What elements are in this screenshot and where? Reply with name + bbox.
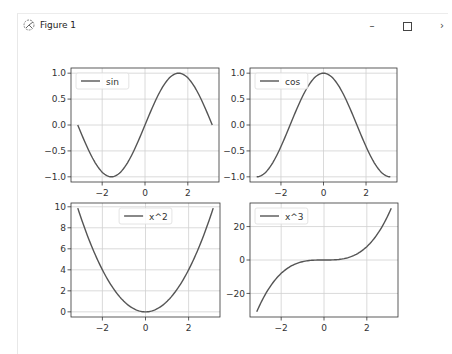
legend: cos [255, 73, 308, 89]
x-tick-label: 2 [186, 323, 192, 333]
y-tick-label: 10 [55, 202, 67, 212]
y-tick-label: −20 [226, 289, 245, 299]
y-tick-label: 4 [60, 265, 66, 275]
y-tick-label: 0.5 [231, 94, 245, 104]
y-tick-label: −1.0 [44, 172, 66, 182]
y-tick-label: 0.5 [52, 94, 66, 104]
y-tick-label: 0 [60, 307, 66, 317]
y-tick-label: 1.0 [231, 68, 246, 78]
x-tick-label: 0 [143, 323, 149, 333]
y-tick-label: −0.5 [223, 146, 245, 156]
legend: x^3 [255, 208, 308, 224]
legend: sin [76, 73, 129, 89]
x-tick-label: −2 [275, 323, 288, 333]
subplot-x-pow-3: −202−20020x^3 [226, 203, 398, 333]
y-tick-label: 8 [60, 223, 66, 233]
y-tick-label: 6 [60, 244, 66, 254]
x-tick-label: 2 [185, 188, 191, 198]
legend-label: x^3 [285, 212, 304, 222]
legend-label: x^2 [149, 212, 168, 222]
x-tick-label: −2 [274, 188, 287, 198]
y-tick-label: 20 [234, 222, 246, 232]
y-tick-label: 2 [60, 286, 66, 296]
legend-label: sin [106, 77, 119, 87]
y-tick-label: 0.0 [52, 120, 67, 130]
x-tick-label: −2 [96, 188, 109, 198]
subplot-x-pow-2: −2020246810x^2 [55, 202, 220, 333]
x-tick-label: 2 [364, 323, 370, 333]
y-tick-label: −0.5 [44, 146, 66, 156]
x-tick-label: 0 [321, 323, 327, 333]
subplot-sin: −202−1.0−0.50.00.51.0sin [44, 68, 219, 198]
y-tick-label: 0 [239, 255, 245, 265]
subplot-cos: −202−1.0−0.50.00.51.0cos [223, 68, 397, 198]
legend: x^2 [119, 208, 172, 224]
y-tick-label: 1.0 [52, 68, 67, 78]
y-tick-label: −1.0 [223, 172, 245, 182]
x-tick-label: −2 [96, 323, 109, 333]
x-tick-label: 0 [142, 188, 148, 198]
x-tick-label: 2 [363, 188, 369, 198]
x-tick-label: 0 [321, 188, 327, 198]
legend-label: cos [285, 77, 300, 87]
y-tick-label: 0.0 [231, 120, 246, 130]
